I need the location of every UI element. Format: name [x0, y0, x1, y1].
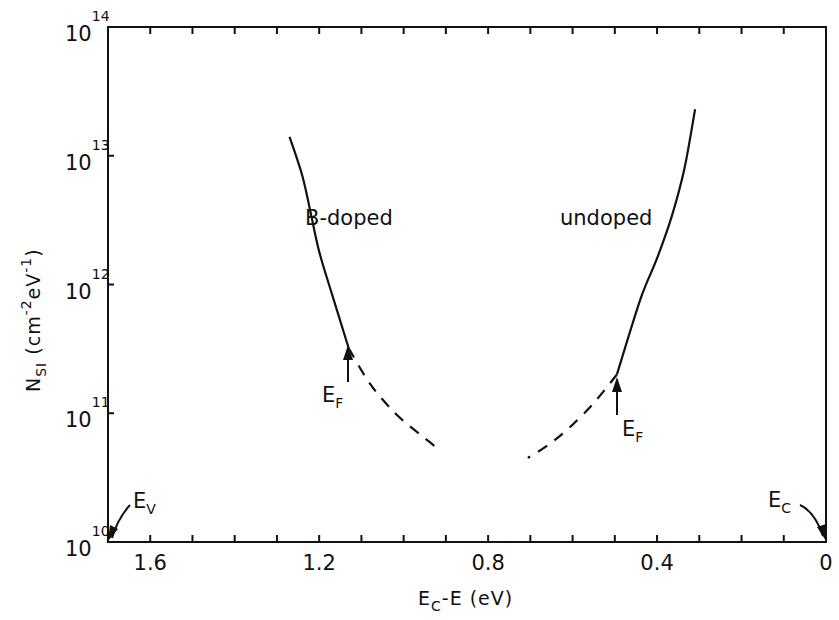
series-b-doped: [290, 137, 349, 348]
x-tick-label: 0.8: [471, 551, 504, 575]
plot-svg: 10101011101210131014 1.61.20.80.40 B-dop…: [0, 0, 839, 620]
series-undoped-extrapolated: [528, 375, 617, 458]
undoped-label: undoped: [560, 206, 652, 230]
series-undoped: [617, 109, 695, 374]
x-tick-label: 0.4: [640, 551, 673, 575]
ec-label: EC: [768, 488, 791, 516]
x-tick-label: 0: [819, 551, 832, 575]
ef-label-b-doped: EF: [322, 383, 343, 411]
x-axis-title: EC-E (eV): [418, 587, 513, 614]
valence-band-edge-marker: EV: [108, 489, 156, 541]
series-b-doped-extrapolated: [349, 348, 440, 450]
chart: 10101011101210131014 1.61.20.80.40 B-dop…: [0, 0, 839, 620]
conduction-band-edge-marker: EC: [768, 488, 826, 541]
x-tick-label: 1.2: [302, 551, 335, 575]
ef-label-undoped: EF: [622, 417, 643, 445]
plot-frame: [108, 27, 826, 542]
ev-label: EV: [133, 489, 156, 517]
axis-ticks: [108, 27, 784, 542]
y-tick-label: 1012: [65, 266, 110, 304]
y-tick-label: 1014: [65, 8, 110, 46]
series-curves: [290, 109, 695, 458]
axes-box: [108, 27, 826, 542]
x-tick-label: 1.6: [134, 551, 167, 575]
y-tick-label: 1011: [65, 394, 110, 432]
curved-arrow-icon: [800, 505, 823, 536]
fermi-level-b-doped-marker: EF: [322, 345, 353, 411]
b-doped-label: B-doped: [305, 206, 393, 230]
fermi-level-undoped-marker: EF: [612, 377, 643, 445]
x-tick-labels: 1.61.20.80.40: [134, 551, 833, 575]
curved-arrow-icon: [112, 505, 130, 538]
y-tick-labels: 10101011101210131014: [65, 8, 110, 561]
y-tick-label: 1010: [65, 523, 110, 561]
y-tick-label: 1013: [65, 137, 110, 175]
y-axis-title: NSI (cm-2eV-1): [18, 248, 49, 392]
